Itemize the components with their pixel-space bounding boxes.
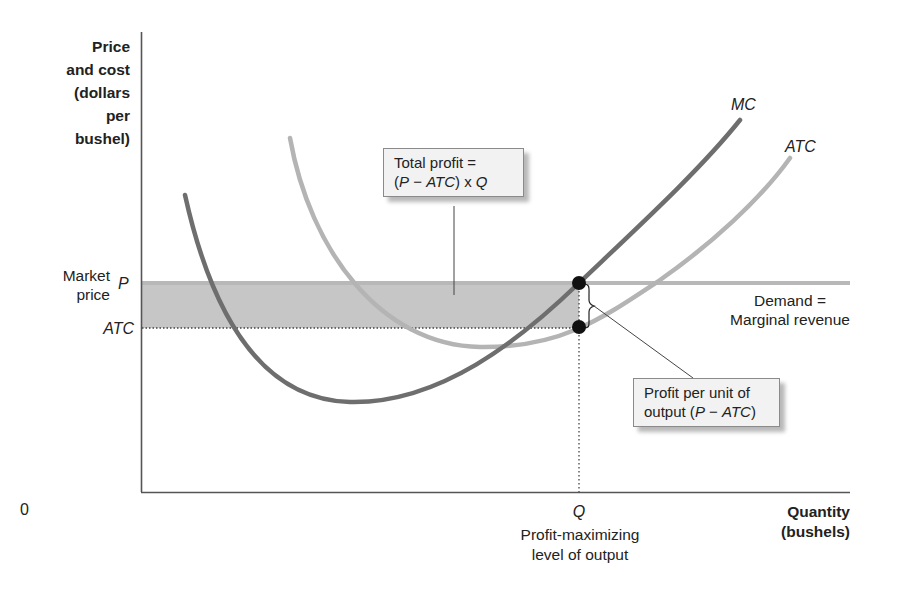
p-symbol: P	[399, 173, 409, 190]
atc-curve-label: ATC	[785, 137, 816, 156]
q-caption-line: level of output	[490, 545, 670, 565]
y-label-line: bushel)	[20, 127, 130, 150]
per-unit-line1: Profit per unit of	[644, 383, 769, 402]
p-symbol: P	[695, 403, 705, 420]
q-caption-line: Profit-maximizing	[490, 525, 670, 545]
text: ) x	[455, 173, 476, 190]
market-price-line: Market	[20, 266, 110, 285]
atc-symbol: ATC	[426, 173, 455, 190]
market-price-label: Market price	[20, 266, 110, 304]
q-symbol: Q	[476, 173, 488, 190]
text: output (	[644, 403, 695, 420]
p-tick-label: P	[118, 274, 129, 293]
total-profit-line1: Total profit =	[394, 153, 513, 172]
minus: −	[409, 173, 426, 190]
market-price-line: price	[20, 285, 110, 304]
x-label-line: Quantity	[730, 502, 850, 522]
per-unit-leader-line	[594, 306, 693, 378]
atc-at-q-point	[572, 320, 586, 334]
mr-mc-point	[572, 276, 586, 290]
mc-label: MC	[731, 95, 756, 114]
text: )	[751, 403, 756, 420]
origin-label: 0	[20, 500, 29, 519]
per-unit-line2: output (P − ATC)	[644, 402, 769, 421]
minus: −	[705, 403, 722, 420]
profit-per-unit-callout: Profit per unit of output (P − ATC)	[633, 378, 780, 427]
y-label-line: and cost	[20, 58, 130, 81]
y-label-line: per	[20, 104, 130, 127]
demand-label: Demand = Marginal revenue	[715, 291, 865, 329]
total-profit-callout: Total profit = (P − ATC) x Q	[383, 148, 524, 197]
demand-label-line: Marginal revenue	[715, 310, 865, 329]
atc-symbol: ATC	[722, 403, 751, 420]
y-axis-label: Price and cost (dollars per bushel)	[20, 35, 130, 150]
q-caption: Profit-maximizing level of output	[490, 525, 670, 565]
x-label-line: (bushels)	[730, 522, 850, 542]
y-label-line: (dollars	[20, 81, 130, 104]
atc-tick-label: ATC	[60, 319, 134, 338]
demand-label-line: Demand =	[715, 291, 865, 310]
total-profit-line2: (P − ATC) x Q	[394, 172, 513, 191]
q-tick-label: Q	[559, 502, 599, 521]
y-label-line: Price	[20, 35, 130, 58]
x-axis-label: Quantity (bushels)	[730, 502, 850, 542]
